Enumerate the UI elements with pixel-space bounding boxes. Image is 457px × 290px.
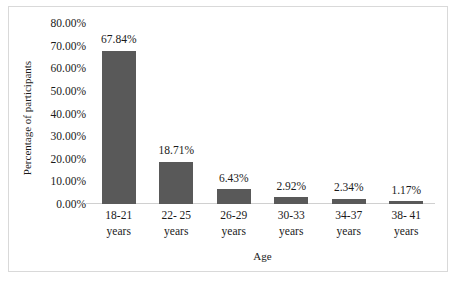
bar-value-label: 18.71%	[159, 145, 194, 157]
x-axis-tick-label-line: years	[263, 224, 321, 240]
bar[interactable]	[389, 201, 423, 204]
x-axis-tick-labels: 18-21years22- 25years26-29years30-33year…	[90, 208, 435, 248]
x-axis-tick-label-line: 38- 41	[378, 208, 436, 224]
bar-slot: 2.34%	[320, 23, 378, 204]
y-axis-tick-label: 60.00%	[28, 63, 86, 75]
x-axis-tick-label: 38- 41years	[378, 208, 436, 239]
x-axis-tick-label-line: 18-21	[90, 208, 148, 224]
bar[interactable]	[217, 189, 251, 204]
bar-slot: 1.17%	[378, 23, 436, 204]
bar[interactable]	[332, 199, 366, 204]
bar[interactable]	[274, 197, 308, 204]
bar[interactable]	[159, 162, 193, 204]
x-axis-tick-label: 22- 25years	[148, 208, 206, 239]
bar-value-label: 2.34%	[334, 182, 364, 194]
x-axis-tick-label-line: 22- 25	[148, 208, 206, 224]
x-axis-tick-label-line: years	[320, 224, 378, 240]
x-axis-tick-label-line: years	[378, 224, 436, 240]
x-axis-tick-label: 34-37years	[320, 208, 378, 239]
x-axis-tick-label-line: years	[205, 224, 263, 240]
y-axis-tick-label: 10.00%	[28, 176, 86, 188]
bar-slot: 67.84%	[90, 23, 148, 204]
y-axis-tick-label: 40.00%	[28, 109, 86, 121]
x-axis-title: Age	[90, 250, 435, 262]
x-axis-tick-label-line: 30-33	[263, 208, 321, 224]
x-axis-tick-label-line: 26-29	[205, 208, 263, 224]
x-axis-tick-label: 18-21years	[90, 208, 148, 239]
y-axis-tick-labels: 0.00%10.00%20.00%30.00%40.00%50.00%60.00…	[28, 12, 86, 208]
x-axis-tick-label: 30-33years	[263, 208, 321, 239]
bar-value-label: 6.43%	[219, 173, 249, 185]
x-axis-tick-label: 26-29years	[205, 208, 263, 239]
y-axis-tick-label: 70.00%	[28, 41, 86, 53]
y-axis-tick-label: 0.00%	[28, 199, 86, 211]
y-axis-tick-label: 20.00%	[28, 154, 86, 166]
bar[interactable]	[102, 51, 136, 204]
bar-value-label: 1.17%	[391, 185, 421, 197]
x-axis-tick-label-line: years	[90, 224, 148, 240]
bar-value-label: 2.92%	[276, 181, 306, 193]
y-axis-tick-label: 50.00%	[28, 86, 86, 98]
chart-figure: Percentage of participants 0.00%10.00%20…	[0, 0, 457, 290]
x-axis-tick-label-line: 34-37	[320, 208, 378, 224]
y-axis-tick-label: 80.00%	[28, 18, 86, 30]
bar-slot: 6.43%	[205, 23, 263, 204]
x-axis-tick-label-line: years	[148, 224, 206, 240]
bar-value-label: 67.84%	[101, 34, 136, 46]
y-axis-tick-label: 30.00%	[28, 131, 86, 143]
bar-slot: 2.92%	[263, 23, 321, 204]
bar-slot: 18.71%	[148, 23, 206, 204]
plot-area: 67.84%18.71%6.43%2.92%2.34%1.17%	[90, 23, 435, 204]
